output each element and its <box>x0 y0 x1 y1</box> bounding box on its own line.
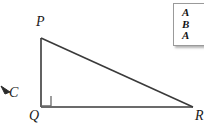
right-angle-marker <box>41 96 51 106</box>
edge-PR <box>41 38 193 107</box>
vertex-label-p: P <box>36 15 45 29</box>
diagram-canvas: P Q R C A B A <box>0 0 204 140</box>
vertex-label-r: R <box>195 109 204 123</box>
info-panel: A B A <box>173 3 204 46</box>
annotation-label-c: C <box>9 86 18 100</box>
info-panel-line: A <box>182 30 204 42</box>
info-panel-list: A B A <box>174 4 204 42</box>
vertex-label-q: Q <box>29 109 39 123</box>
info-panel-line: A <box>182 7 204 19</box>
